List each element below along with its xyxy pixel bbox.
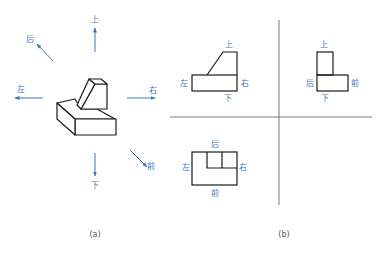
label-back: 后 xyxy=(26,36,34,44)
side-view-label-right: 前 xyxy=(351,80,359,88)
top-view-label-bottom: 前 xyxy=(211,190,219,198)
label-left: 左 xyxy=(17,86,25,94)
side-view-label-top: 上 xyxy=(320,41,328,49)
arrow-back-icon xyxy=(37,44,53,61)
caption-b: (b) xyxy=(278,231,289,239)
front-view-label-bottom: 下 xyxy=(224,95,232,103)
quadrant-dividers xyxy=(170,20,372,205)
label-front: 前 xyxy=(147,163,155,171)
top-view-label-top: 后 xyxy=(211,141,219,149)
isometric-object xyxy=(57,79,116,135)
side-view-label-left: 后 xyxy=(306,80,314,88)
front-view-label-right: 右 xyxy=(241,80,249,88)
label-right: 右 xyxy=(149,87,157,95)
front-view-label-left: 左 xyxy=(180,80,188,88)
drawing-canvas xyxy=(0,0,384,253)
side-view xyxy=(317,52,348,91)
label-down: 下 xyxy=(91,182,99,190)
arrow-front-icon xyxy=(130,150,147,167)
caption-a: (a) xyxy=(89,231,100,239)
front-view xyxy=(192,52,237,91)
top-view-label-left: 左 xyxy=(182,164,190,172)
front-view-label-top: 上 xyxy=(225,41,233,49)
side-view-label-bottom: 下 xyxy=(321,95,329,103)
top-view xyxy=(192,152,237,185)
top-view-label-right: 右 xyxy=(239,164,247,172)
label-up: 上 xyxy=(91,16,99,24)
